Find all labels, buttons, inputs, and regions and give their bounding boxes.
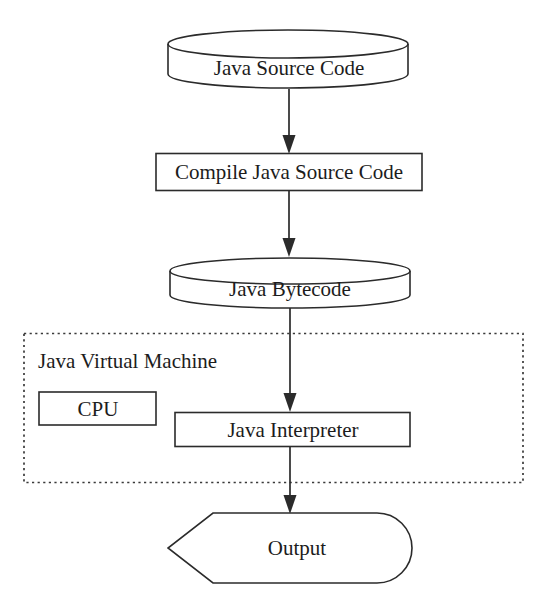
node-label-cpu: CPU bbox=[78, 399, 119, 420]
edge-interpreter-to-output bbox=[284, 447, 297, 514]
edge-source-to-compile bbox=[283, 89, 296, 154]
node-label-compile-java-source-code: Compile Java Source Code bbox=[175, 162, 403, 183]
node-label-output: Output bbox=[268, 538, 326, 559]
edge-compile-to-bytecode bbox=[283, 191, 296, 257]
node-label-java-interpreter: Java Interpreter bbox=[227, 420, 358, 441]
node-label-java-virtual-machine: Java Virtual Machine bbox=[38, 351, 217, 372]
java-execution-flow-diagram: Java Source Code Compile Java Source Cod… bbox=[0, 0, 545, 597]
node-label-java-bytecode: Java Bytecode bbox=[229, 279, 351, 300]
node-label-java-source-code: Java Source Code bbox=[214, 58, 364, 79]
edge-bytecode-to-interpreter bbox=[284, 308, 297, 412]
